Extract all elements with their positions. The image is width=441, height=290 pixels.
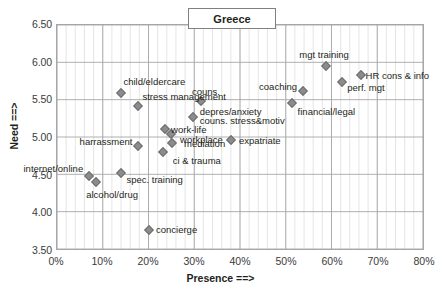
data-point-marker [226, 135, 236, 145]
data-point-marker [356, 71, 366, 81]
y-axis-title: Need ==> [8, 86, 20, 166]
plot-area: internet/onlinealcohol/drugspec. trainin… [56, 24, 424, 250]
data-point-label: spec. training [126, 175, 183, 185]
data-points-layer: internet/onlinealcohol/drugspec. trainin… [57, 25, 423, 249]
data-point-marker [144, 225, 154, 235]
data-point-marker [158, 147, 168, 157]
data-point-label: concierge [156, 225, 197, 235]
x-axis-ticks: 0%10%20%30%40%50%60%70%80% [0, 256, 441, 272]
data-point-label: harrassment [80, 137, 133, 147]
data-point-label: perf. mgt [347, 83, 385, 93]
data-point-marker [298, 86, 308, 96]
data-point-label: expatriate [239, 136, 281, 146]
x-axis-tick-label: 20% [137, 256, 158, 267]
x-axis-tick-label: 70% [367, 256, 388, 267]
data-point-marker [116, 88, 126, 98]
data-point-label: stress management [142, 92, 225, 102]
x-axis-tick-label: 50% [275, 256, 296, 267]
x-axis-tick-label: 40% [229, 256, 250, 267]
data-point-label: alcohol/drug [86, 190, 138, 200]
y-axis-tick-label: 6.50 [8, 19, 52, 29]
data-point-marker [167, 138, 177, 148]
data-point-label: depres/anxiety [200, 107, 262, 117]
data-point-marker [188, 112, 198, 122]
y-axis-tick-label: 4.00 [8, 207, 52, 217]
data-point-label: financial/legal [298, 107, 356, 117]
data-point-marker [287, 98, 297, 108]
x-axis-title: Presence ==> [0, 272, 441, 284]
data-point-label: HR cons & info [366, 71, 429, 81]
data-point-marker [91, 177, 101, 187]
data-point-marker [321, 61, 331, 71]
data-point-marker [133, 141, 143, 151]
y-axis-tick-label: 3.50 [8, 245, 52, 255]
data-point-marker [133, 101, 143, 111]
data-point-marker [337, 77, 347, 87]
x-axis-tick-label: 0% [48, 256, 63, 267]
chart-title: Greece [213, 13, 250, 25]
chart-title-box: Greece [188, 8, 276, 29]
data-point-label: mgt training [299, 50, 349, 60]
data-point-marker [116, 168, 126, 178]
data-point-label: ci & trauma [173, 156, 221, 166]
data-point-label: internet/online [24, 164, 84, 174]
data-point-label: child/eldercare [123, 77, 185, 87]
data-point-label: couns. stress&motiv [200, 116, 285, 126]
data-point-label: workplace [180, 135, 223, 145]
data-point-label: coaching [259, 82, 297, 92]
x-axis-tick-label: 60% [321, 256, 342, 267]
y-axis-tick-label: 6.00 [8, 57, 52, 67]
x-axis-tick-label: 30% [183, 256, 204, 267]
x-axis-tick-label: 80% [413, 256, 434, 267]
x-axis-tick-label: 10% [91, 256, 112, 267]
scatter-chart: 6.506.005.505.004.504.003.50 Need ==> in… [0, 0, 441, 290]
